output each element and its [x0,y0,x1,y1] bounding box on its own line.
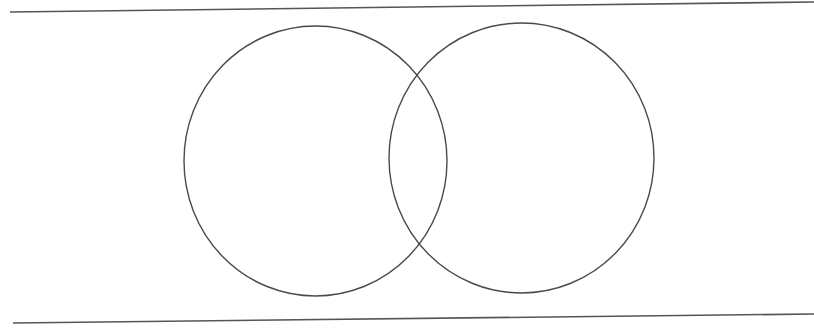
venn-circle-right [389,23,654,293]
venn-diagram [0,0,814,329]
bottom-rule [13,314,814,323]
top-rule [10,2,814,12]
venn-circle-left [184,26,447,296]
